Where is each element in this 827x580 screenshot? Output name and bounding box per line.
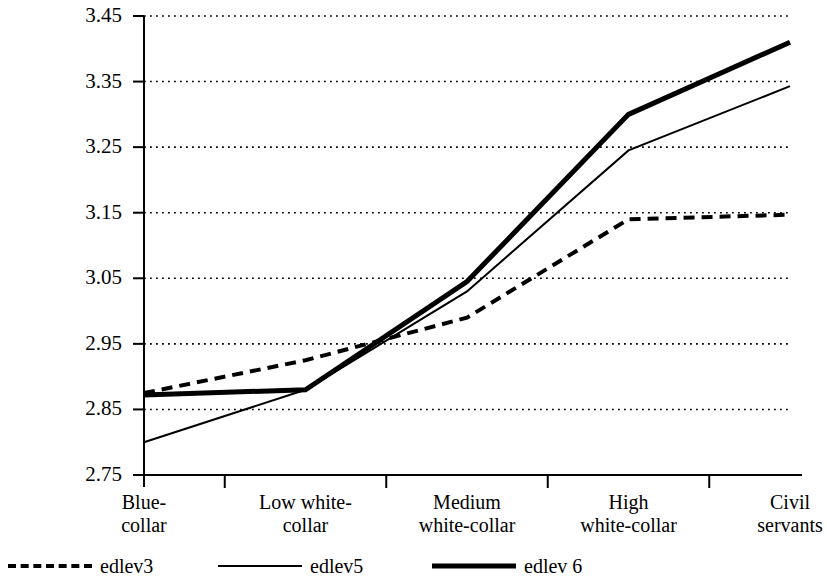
y-axis-tick-label: 3.45 — [0, 5, 122, 26]
x-axis-tick-label-line: Medium — [386, 491, 548, 514]
legend-entry: edlev 6 — [432, 552, 582, 580]
x-axis-tick-label-line: High — [548, 491, 710, 514]
x-axis-tick-label-line: servants — [709, 514, 827, 537]
x-axis-tick-label-line: white-collar — [548, 514, 710, 537]
legend-swatch-dotted — [8, 559, 92, 573]
y-axis-tick-label: 2.75 — [0, 464, 122, 485]
x-axis-tick-label-line: white-collar — [386, 514, 548, 537]
legend-label: edlev3 — [92, 555, 153, 577]
data-series-group — [144, 42, 790, 442]
series-line-edlev3 — [144, 215, 790, 393]
y-axis-tick-label: 3.15 — [0, 202, 122, 223]
y-axis-tick-label: 2.85 — [0, 398, 122, 419]
x-axis-tick-label: Low white-collar — [225, 491, 387, 537]
x-axis-tick-label: Blue-collar — [63, 491, 225, 537]
x-axis-tick-label: Mediumwhite-collar — [386, 491, 548, 537]
y-axis-ticks — [133, 16, 144, 475]
x-axis-tick-label-line: Civil — [709, 491, 827, 514]
legend-label: edlev5 — [302, 555, 363, 577]
x-axis-tick-label-line: Blue- — [63, 491, 225, 514]
x-axis-tick-label: Highwhite-collar — [548, 491, 710, 537]
legend-label: edlev 6 — [516, 555, 582, 577]
y-axis-tick-label: 3.25 — [0, 136, 122, 157]
y-axis-tick-label: 2.95 — [0, 333, 122, 354]
x-axis-tick-label-line: Low white- — [225, 491, 387, 514]
x-axis-ticks — [225, 475, 710, 488]
legend-entry: edlev5 — [218, 552, 363, 580]
x-axis-tick-label: Civilservants — [709, 491, 827, 537]
x-axis-tick-label-line: collar — [63, 514, 225, 537]
legend-swatch-thin — [218, 559, 302, 573]
x-axis-tick-label-line: collar — [225, 514, 387, 537]
axes — [142, 16, 802, 487]
gridlines — [144, 16, 790, 409]
series-line-edlev5 — [144, 86, 790, 442]
legend-entry: edlev3 — [8, 552, 153, 580]
y-axis-tick-label: 3.05 — [0, 267, 122, 288]
y-axis-tick-label: 3.35 — [0, 71, 122, 92]
legend-swatch-thick — [432, 559, 516, 573]
chart-legend: edlev3edlev5edlev 6 — [0, 552, 802, 580]
